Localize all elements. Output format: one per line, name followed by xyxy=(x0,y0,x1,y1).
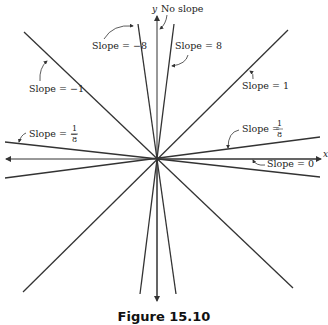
line-slope-neg1 xyxy=(24,32,293,288)
frac-den-1-8: 8 xyxy=(277,130,282,139)
label-slope-neg8: Slope = −8 xyxy=(92,40,147,51)
label-slope-neg1-8: Slope = − xyxy=(29,128,78,139)
label-slope-1-8: Slope = xyxy=(242,123,280,134)
no-slope-label: No slope xyxy=(161,3,204,14)
figure-caption: Figure 15.10 xyxy=(0,309,328,324)
pointer-slope-1 xyxy=(250,71,253,79)
pointer-slope-8 xyxy=(172,55,188,66)
frac-num-neg1-8: 1 xyxy=(72,124,77,133)
label-slope-1: Slope = 1 xyxy=(242,80,289,91)
label-slope-8: Slope = 8 xyxy=(175,40,222,51)
y-axis-label: y xyxy=(151,4,158,14)
pointer-slope-neg1 xyxy=(40,61,47,81)
pointer-slope-0 xyxy=(253,160,265,165)
frac-num-1-8: 1 xyxy=(277,119,282,128)
x-axis-label: x xyxy=(323,149,328,159)
label-slope-neg1: Slope = −1 xyxy=(29,83,84,94)
pointer-slope-1-8 xyxy=(228,130,239,148)
pointer-slope-neg8 xyxy=(104,26,133,39)
pointer-slope-neg1-8 xyxy=(19,133,26,142)
label-slope-0: Slope = 0 xyxy=(267,158,314,169)
frac-den-neg1-8: 8 xyxy=(72,135,77,144)
slope-diagram: y No slope x Slope = −8 Slope = 8 Slope … xyxy=(0,0,328,325)
no-slope-pointer xyxy=(160,15,167,29)
